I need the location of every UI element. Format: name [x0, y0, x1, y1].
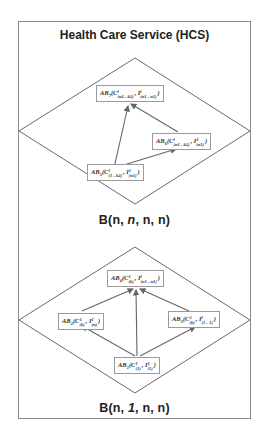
top-block-label: B(n, n, n, n): [18, 213, 251, 227]
node-ab2: AB2(C1(k), I1(n)): [58, 313, 104, 330]
node-ab1: AB1(C1(1), I1(1)): [114, 357, 160, 374]
edge-ab1-ab2: [82, 326, 135, 356]
node-ab7: AB7(Cl(n2 - k2), Il(n1 - n1)): [96, 85, 164, 102]
edge-ab5-ab7: [114, 106, 128, 168]
edge-ab2-ab4: [82, 289, 133, 311]
edge-ab6-ab7: [131, 104, 178, 132]
node-ab3: AB3(C1(k), Il(1 - 1)): [168, 311, 220, 328]
diagram-canvas: Health Care Service (HCS) AB7(Cl(n2 - k2…: [0, 0, 267, 438]
node-ab6: AB6(Cl(n1 - k2), I1(n1)): [152, 133, 211, 150]
node-ab5: AB5(Cl(1 - k2), I1(n1)): [87, 164, 144, 181]
top-diamond: [19, 58, 250, 204]
edge-ab1-ab4: [136, 290, 137, 356]
node-ab4: AB4(C1(k), Il(n1 - n1)): [107, 270, 164, 287]
edge-ab1-ab3: [140, 327, 195, 356]
bottom-block-label: B(n, 1, n, n): [18, 401, 251, 415]
edge-ab3-ab4: [140, 289, 189, 311]
